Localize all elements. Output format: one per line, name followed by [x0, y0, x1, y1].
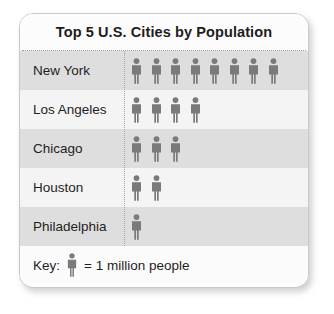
row-label: Houston: [20, 180, 124, 195]
person-icon: [130, 97, 143, 123]
row-figures: [124, 58, 308, 84]
row-label: Chicago: [20, 141, 124, 156]
row-label: Los Angeles: [20, 102, 124, 117]
person-icon: [150, 175, 163, 201]
person-icon: [169, 58, 182, 84]
table-row: Houston: [20, 168, 308, 207]
person-icon: [169, 97, 182, 123]
person-icon: [150, 58, 163, 84]
page-title: Top 5 U.S. Cities by Population: [56, 24, 272, 40]
column-divider: [124, 51, 125, 246]
row-figures: [124, 136, 308, 162]
person-icon: [130, 175, 143, 201]
person-icon: [189, 58, 202, 84]
person-icon: [267, 58, 280, 84]
person-icon: [169, 136, 182, 162]
key-text: = 1 million people: [84, 258, 189, 273]
person-icon: [130, 214, 143, 240]
row-figures: [124, 214, 308, 240]
row-label: Philadelphia: [20, 219, 124, 234]
person-icon: [189, 97, 202, 123]
row-figures: [124, 175, 308, 201]
person-icon: [208, 58, 221, 84]
table-row: Los Angeles: [20, 90, 308, 129]
person-icon: [247, 58, 260, 84]
row-label: New York: [20, 63, 124, 78]
table-row: Chicago: [20, 129, 308, 168]
chart-title-bar: Top 5 U.S. Cities by Population: [20, 14, 308, 50]
person-icon: [130, 136, 143, 162]
key-label: Key:: [33, 258, 60, 273]
table-row: New York: [20, 51, 308, 90]
chart-key-row: Key: = 1 million people: [20, 246, 308, 284]
row-figures: [124, 97, 308, 123]
table-row: Philadelphia: [20, 207, 308, 246]
person-icon: [228, 58, 241, 84]
person-icon: [150, 136, 163, 162]
pictograph-card: Top 5 U.S. Cities by Population New York…: [19, 13, 309, 288]
person-icon: [150, 97, 163, 123]
person-icon: [130, 58, 143, 84]
person-icon: [66, 253, 78, 277]
pictograph-rows: New YorkLos AngelesChicagoHoustonPhilade…: [20, 51, 308, 246]
